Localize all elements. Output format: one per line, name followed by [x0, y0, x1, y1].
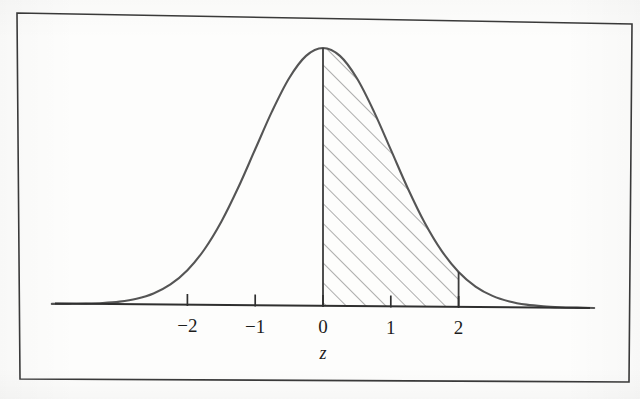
normal-distribution-chart	[0, 0, 640, 399]
figure-container: −2−1012 z	[0, 0, 640, 399]
x-axis-tick-label: 1	[386, 318, 396, 337]
shaded-area-0-to-2	[323, 48, 459, 307]
x-axis-tick-label: −2	[177, 316, 197, 335]
x-axis-title: z	[319, 344, 326, 362]
x-axis-tick-label: −1	[245, 317, 265, 336]
x-axis-tick-label: 0	[318, 317, 328, 336]
x-axis-tick-label: 2	[454, 318, 464, 337]
